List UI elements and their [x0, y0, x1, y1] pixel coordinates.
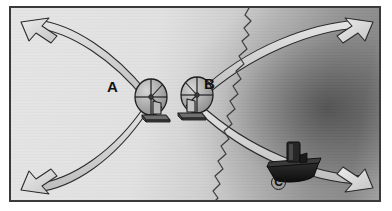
source-b-label: B	[204, 76, 215, 91]
diagram-frame: A B C	[9, 6, 381, 202]
figure-root: A B C	[0, 0, 392, 211]
source-a-label: A	[107, 79, 118, 94]
diagram-vector-layer	[11, 8, 381, 202]
jagged-wavefront-line	[212, 8, 251, 202]
boat-c-label: C	[271, 175, 286, 190]
